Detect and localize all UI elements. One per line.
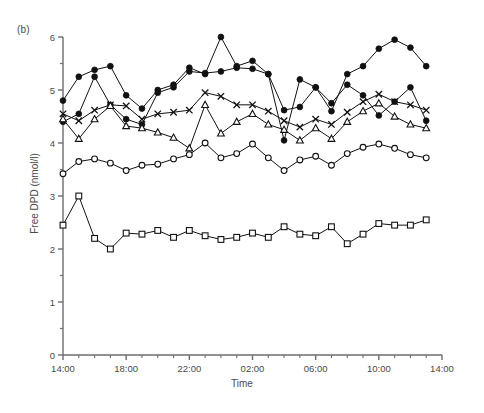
marker-open-circle (297, 157, 303, 163)
marker-filled-circle (92, 74, 98, 80)
marker-filled-circle (186, 69, 192, 75)
marker-open-circle (123, 168, 129, 174)
marker-open-circle (139, 162, 145, 168)
marker-open-square (423, 217, 429, 223)
y-tick-label: 5 (50, 85, 55, 96)
marker-open-circle (408, 152, 414, 158)
marker-filled-circle (392, 37, 398, 43)
marker-filled-circle (202, 70, 208, 76)
marker-open-square (265, 234, 271, 240)
marker-open-square (123, 230, 129, 236)
marker-filled-circle (250, 66, 256, 72)
marker-filled-circle (344, 71, 350, 77)
marker-open-square (202, 233, 208, 239)
marker-open-square (376, 221, 382, 227)
marker-filled-circle (155, 90, 161, 96)
marker-filled-circle (297, 104, 303, 110)
marker-open-circle (281, 168, 287, 174)
marker-open-square (155, 228, 161, 234)
marker-filled-circle (76, 74, 82, 80)
marker-filled-circle (329, 108, 335, 114)
marker-open-square (313, 233, 319, 239)
marker-filled-circle (218, 34, 224, 40)
marker-open-circle (376, 141, 382, 147)
marker-x (202, 89, 208, 95)
x-tick-label: 14:00 (430, 363, 454, 374)
marker-open-circle (250, 141, 256, 147)
marker-filled-circle (123, 92, 129, 98)
y-tick-label: 3 (50, 191, 55, 202)
marker-filled-circle (344, 82, 350, 88)
chart-plot-area: 012345614:0018:0022:0002:0006:0010:0014:… (0, 0, 484, 413)
marker-open-triangle (233, 118, 240, 124)
marker-open-triangle (218, 130, 225, 136)
marker-filled-circle (408, 45, 414, 51)
marker-open-triangle (91, 116, 98, 122)
marker-open-square (250, 230, 256, 236)
y-tick-label: 2 (50, 244, 55, 255)
marker-open-circle (107, 160, 113, 166)
x-tick-label: 02:00 (241, 363, 265, 374)
marker-x (423, 107, 429, 113)
y-tick-label: 0 (50, 350, 55, 361)
marker-open-triangle (407, 121, 414, 127)
marker-x (265, 108, 271, 114)
marker-open-circle (202, 140, 208, 146)
marker-filled-circle (360, 92, 366, 98)
marker-open-square (360, 231, 366, 237)
marker-open-circle (392, 145, 398, 151)
marker-filled-circle (408, 84, 414, 90)
marker-open-triangle (312, 125, 319, 131)
series-subject-1 (60, 34, 429, 143)
marker-filled-circle (313, 84, 319, 90)
marker-open-circle (423, 155, 429, 161)
series-line (63, 37, 426, 140)
series-subject-6 (60, 193, 429, 252)
marker-filled-circle (92, 67, 98, 73)
marker-open-circle (313, 153, 319, 159)
marker-open-triangle (265, 121, 272, 127)
marker-filled-circle (60, 98, 66, 104)
x-tick-label: 06:00 (304, 363, 328, 374)
marker-filled-circle (250, 58, 256, 64)
axes: 012345614:0018:0022:0002:0006:0010:0014:… (50, 32, 454, 375)
y-tick-label: 6 (50, 32, 55, 43)
marker-open-circle (265, 155, 271, 161)
series-line (63, 68, 426, 125)
x-tick-label: 14:00 (51, 363, 75, 374)
marker-filled-circle (76, 111, 82, 117)
marker-open-square (107, 246, 113, 252)
marker-open-circle (329, 162, 335, 168)
marker-x (344, 109, 350, 115)
series-line (63, 196, 426, 249)
marker-open-square (392, 222, 398, 228)
marker-x (218, 93, 224, 99)
series-subject-5 (60, 140, 429, 177)
marker-open-square (186, 228, 192, 234)
marker-open-triangle (344, 118, 351, 124)
marker-filled-circle (218, 69, 224, 75)
series-line (63, 103, 426, 148)
series-line (63, 93, 426, 127)
series-subject-4 (60, 100, 430, 151)
marker-x (328, 121, 334, 127)
marker-filled-circle (360, 63, 366, 69)
marker-open-square (60, 222, 66, 228)
marker-open-square (92, 236, 98, 242)
marker-open-circle (76, 159, 82, 165)
marker-open-circle (234, 151, 240, 157)
marker-open-square (408, 222, 414, 228)
marker-open-square (218, 237, 224, 243)
marker-open-square (234, 234, 240, 240)
marker-filled-circle (297, 77, 303, 83)
marker-filled-circle (329, 100, 335, 106)
data-series-group (60, 34, 430, 252)
x-tick-label: 18:00 (114, 363, 138, 374)
marker-open-triangle (202, 101, 209, 107)
marker-open-triangle (391, 113, 398, 119)
marker-filled-circle (171, 84, 177, 90)
marker-x (76, 118, 82, 124)
marker-open-triangle (375, 100, 382, 106)
marker-open-circle (186, 152, 192, 158)
marker-open-square (139, 231, 145, 237)
